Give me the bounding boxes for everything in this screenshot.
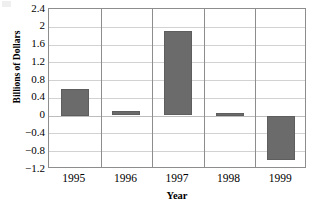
y-axis-tick-label: 2 xyxy=(12,20,45,31)
bar xyxy=(267,116,295,160)
y-axis-tick-label: 0 xyxy=(12,109,45,120)
x-axis-title: Year xyxy=(48,190,306,201)
bar xyxy=(164,31,192,115)
bar xyxy=(61,89,89,116)
bar xyxy=(216,113,244,116)
y-axis-tick-label: −0.8 xyxy=(12,145,45,156)
y-axis-tick-label: 0.8 xyxy=(12,74,45,85)
bars-layer xyxy=(49,9,305,167)
plot-area xyxy=(48,8,306,168)
x-axis-tick-label: 1999 xyxy=(254,172,306,185)
y-axis-tick-labels: 2.421.61.20.80.40−0.4−0.8−1.2 xyxy=(12,8,45,168)
bar-chart: Billions of Dollars 2.421.61.20.80.40−0.… xyxy=(0,0,315,208)
scan-artifact xyxy=(2,1,11,7)
y-axis-tick-label: 0.4 xyxy=(12,91,45,102)
y-axis-tick-label: 2.4 xyxy=(12,3,45,14)
x-axis-tick-labels: 19951996199719981999 xyxy=(48,172,306,188)
x-axis-tick-label: 1997 xyxy=(151,172,203,185)
y-axis-tick-label: −0.4 xyxy=(12,127,45,138)
x-axis-tick-label: 1996 xyxy=(100,172,152,185)
x-axis-tick-label: 1998 xyxy=(203,172,255,185)
y-axis-tick-label: −1.2 xyxy=(12,163,45,174)
x-axis-tick-label: 1995 xyxy=(48,172,100,185)
y-axis-tick-label: 1.2 xyxy=(12,56,45,67)
y-axis-tick-label: 1.6 xyxy=(12,38,45,49)
bar xyxy=(112,111,140,115)
